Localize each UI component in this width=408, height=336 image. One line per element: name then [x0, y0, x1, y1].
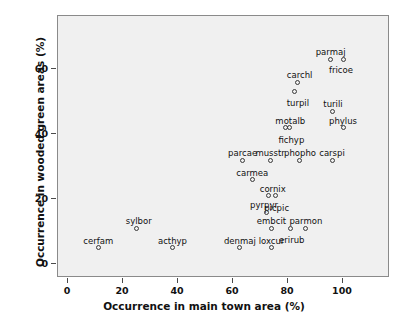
- x-tick-label-60: 60: [225, 285, 238, 296]
- x-tick-label-40: 40: [170, 285, 183, 296]
- data-point-loxcur: [269, 245, 274, 250]
- data-point-denmaj: [237, 245, 242, 250]
- point-label-parcae: parcae: [228, 149, 257, 158]
- point-label-carchl: carchl: [287, 71, 313, 80]
- data-point-picpic: [273, 193, 278, 198]
- data-point-embcit: [269, 226, 274, 231]
- point-label-acthyp: acthyp: [158, 237, 187, 246]
- data-point-fichyp: [287, 125, 292, 130]
- data-point-fricoe: [341, 57, 346, 62]
- x-tick-60: [232, 278, 233, 283]
- x-axis-label: Occurrence in main town area (%): [0, 300, 408, 312]
- point-label-denmaj: denmaj: [224, 237, 256, 246]
- x-tick-label-0: 0: [64, 285, 71, 296]
- data-point-sylbor: [134, 226, 139, 231]
- data-point-cornix: [266, 193, 271, 198]
- point-label-cerfam: cerfam: [83, 237, 113, 246]
- data-point-parcae: [240, 158, 245, 163]
- y-tick-40: [51, 133, 56, 134]
- data-point-carmea: [250, 177, 255, 182]
- data-point-musstr: [268, 158, 273, 163]
- point-label-phylus: phylus: [329, 117, 357, 126]
- point-label-parmon: parmon: [289, 217, 322, 226]
- x-tick-100: [342, 278, 343, 283]
- point-label-fichyp: fichyp: [278, 136, 304, 145]
- x-tick-80: [287, 278, 288, 283]
- point-label-phopho: phopho: [284, 149, 316, 158]
- x-tick-40: [177, 278, 178, 283]
- point-label-fricoe: fricoe: [329, 66, 353, 75]
- point-label-pyrpyr: pyrpyr: [250, 201, 278, 210]
- y-tick-60: [51, 68, 56, 69]
- point-label-loxcur: loxcur: [259, 237, 285, 246]
- data-point-carspi: [330, 158, 335, 163]
- point-label-sylbor: sylbor: [126, 217, 152, 226]
- data-point-turpil: [292, 89, 297, 94]
- point-label-musstr: musstr: [255, 149, 284, 158]
- point-label-turili: turili: [323, 100, 342, 109]
- plot-area: parmajfricoecarchlturpilturiliphylusmota…: [57, 15, 389, 277]
- data-point-acthyp: [170, 245, 175, 250]
- data-point-turili: [330, 109, 335, 114]
- x-tick-0: [67, 278, 68, 283]
- x-tick-20: [122, 278, 123, 283]
- data-point-cerfam: [96, 245, 101, 250]
- point-label-turpil: turpil: [287, 99, 309, 108]
- data-point-erirub: [288, 226, 293, 231]
- data-point-parmon: [303, 226, 308, 231]
- data-point-phylus: [341, 125, 346, 130]
- data-point-parmaj: [328, 57, 333, 62]
- data-point-pyrpyr: [264, 210, 269, 215]
- data-point-carchl: [295, 80, 300, 85]
- point-label-carspi: carspi: [319, 149, 345, 158]
- scatter-plot-figure: parmajfricoecarchlturpilturiliphylusmota…: [0, 0, 408, 336]
- point-label-parmaj: parmaj: [316, 48, 346, 57]
- x-tick-label-20: 20: [115, 285, 128, 296]
- point-label-embcit: embcit: [257, 217, 286, 226]
- y-axis-label: Occurrence in wooded green areas (%): [34, 22, 46, 282]
- point-label-carmea: carmea: [236, 169, 268, 178]
- x-tick-label-100: 100: [332, 285, 352, 296]
- y-tick-0: [51, 263, 56, 264]
- x-tick-label-80: 80: [280, 285, 293, 296]
- point-label-cornix: cornix: [260, 185, 286, 194]
- data-point-phopho: [297, 158, 302, 163]
- y-tick-20: [51, 198, 56, 199]
